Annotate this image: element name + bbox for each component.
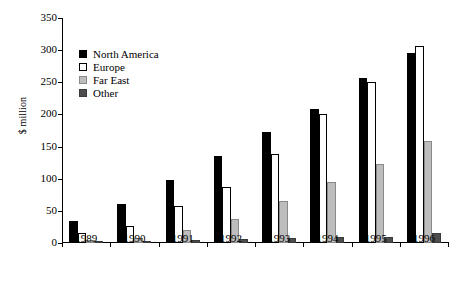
y-tick-mark [58,147,63,148]
x-tick-label: 1993 [254,232,304,244]
y-tick-label: 50 [46,203,57,218]
legend-label-far-east: Far East [93,74,129,86]
y-tick-label: 150 [41,139,58,154]
legend-swatch-europe [79,63,87,71]
legend: North America Europe Far East Other [79,48,159,100]
x-tick-label: 1990 [109,232,159,244]
bar-far-east [424,141,433,243]
y-tick-label: 200 [41,106,58,121]
bar-group [260,132,298,243]
y-tick-mark [58,18,63,19]
bar-group [308,109,346,243]
bar-europe [319,114,328,243]
bar-chart: $ million 050100150200250300350 19891990… [0,0,458,282]
x-tick-label: 1991 [158,232,208,244]
y-axis-title: $ million [17,56,28,176]
legend-item-other: Other [79,87,159,99]
bar-europe [415,46,424,243]
x-tick-label: 1992 [206,232,256,244]
y-tick-label: 300 [41,42,58,57]
y-tick-mark [58,114,63,115]
y-tick-mark [58,179,63,180]
bar-europe [271,154,280,243]
x-tick-label: 1989 [61,232,111,244]
bar-north-america [262,132,271,243]
x-tick-label: 1995 [351,232,401,244]
legend-swatch-other [79,89,87,97]
bar-north-america [407,53,416,243]
legend-swatch-far-east [79,76,87,84]
y-tick-mark [58,82,63,83]
bar-group [212,156,250,243]
legend-swatch-north-america [79,50,87,58]
bar-group [357,78,395,243]
y-axis-line [62,18,63,243]
bar-group [405,46,443,243]
legend-item-north-america: North America [79,48,159,60]
bar-north-america [214,156,223,243]
y-tick-mark [58,211,63,212]
bar-europe [367,82,376,243]
legend-item-far-east: Far East [79,74,159,86]
legend-label-other: Other [93,87,118,99]
y-tick-label: 350 [41,10,58,25]
bar-north-america [310,109,319,243]
x-tick-label: 1996 [399,232,449,244]
y-tick-label: 100 [41,171,58,186]
y-tick-mark [58,50,63,51]
y-tick-label: 0 [52,235,58,250]
bar-north-america [359,78,368,243]
legend-label-north-america: North America [93,48,159,60]
legend-item-europe: Europe [79,61,159,73]
x-tick-label: 1994 [302,232,352,244]
y-tick-label: 250 [41,74,58,89]
legend-label-europe: Europe [93,61,125,73]
